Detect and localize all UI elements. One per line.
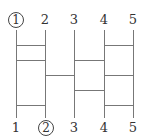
ladder-diagram: 1 2 3 4 5 1 2 3 4 5 [0, 0, 147, 140]
top-label-2: 2 [37, 12, 53, 28]
top-label-5: 5 [125, 12, 141, 28]
bottom-label-4: 4 [96, 120, 112, 136]
bottom-label-2: 2 [38, 120, 54, 136]
top-label-4: 4 [96, 12, 112, 28]
top-label-3: 3 [66, 12, 82, 28]
bottom-label-5: 5 [125, 120, 141, 136]
bottom-label-1: 1 [8, 120, 24, 136]
top-label-1: 1 [8, 12, 24, 28]
bottom-label-3: 3 [66, 120, 82, 136]
